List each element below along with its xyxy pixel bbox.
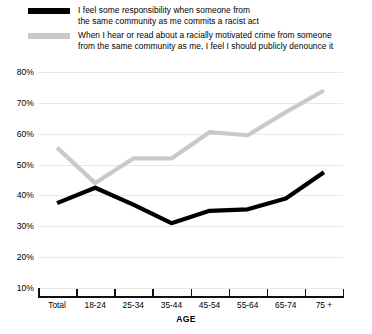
series-layer [0,0,372,334]
x-axis-title: AGE [0,314,372,324]
x-axis-tick-label: 35-44 [152,300,190,310]
chart-container: I feel some responsibility when someone … [0,0,372,334]
x-axis-tick-label: 75 + [305,300,343,310]
x-axis-tick-label: 18-24 [76,300,114,310]
x-axis-tick [76,289,77,296]
series-line [57,91,324,184]
x-axis-tick [305,289,306,296]
x-axis-tick [114,289,115,296]
x-axis-line [38,296,344,298]
x-axis-tick-label: 65-74 [267,300,305,310]
x-axis-tick-label: 25-34 [114,300,152,310]
x-axis-tick [267,289,268,296]
x-axis-tick [191,289,192,296]
x-axis-tick [229,289,230,296]
x-axis-tick-end [343,289,344,296]
x-axis-tick [152,289,153,296]
x-axis-tick-label: 45-54 [191,300,229,310]
x-axis-tick-label: Total [38,300,76,310]
x-axis-tick-label: 55-64 [229,300,267,310]
